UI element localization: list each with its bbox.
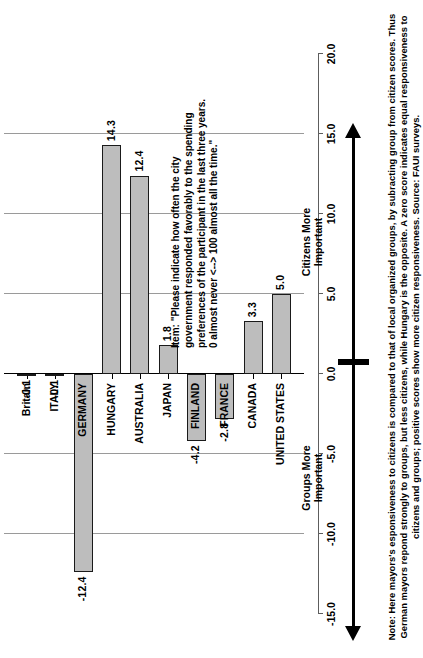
bar-value-label: -4.2	[190, 445, 201, 464]
bar-hungary[interactable]	[102, 145, 121, 374]
bar-value-label: 5.0	[275, 275, 286, 290]
gridline--5	[4, 453, 304, 454]
axis-tick-label: 5.0	[326, 272, 337, 316]
axis-tick-label: -15.0	[326, 592, 337, 636]
category-label-united-states: UNITED STATES	[275, 383, 286, 465]
bar-value-label: -12.4	[77, 576, 88, 601]
axis-tick	[318, 373, 323, 374]
item-question-text: Item: "Please indicate how often the cit…	[170, 98, 221, 348]
note-source-text: Note: Here mayors's esponsiveness to cit…	[386, 4, 423, 650]
category-tick	[112, 374, 113, 379]
bar-japan[interactable]	[159, 345, 178, 374]
gridline--15	[4, 613, 304, 614]
category-label-finland: FINLAND	[190, 383, 201, 429]
axis-tick-label: 10.0	[326, 192, 337, 236]
bar-canada[interactable]	[244, 321, 263, 374]
category-label-france: FRANCE	[219, 383, 230, 427]
category-tick	[168, 374, 169, 379]
groups-more-important-line1: Groups More	[300, 445, 312, 510]
bar-value-label: 14.3	[106, 120, 117, 141]
axis-tick-label: 20.0	[326, 32, 337, 76]
citizens-more-important-line2: Important	[312, 218, 324, 266]
category-tick	[253, 374, 254, 379]
groups-more-important-line2: Important	[312, 454, 324, 502]
bar-italy[interactable]	[45, 374, 64, 376]
bar-united-states[interactable]	[272, 294, 291, 374]
bar-value-label: 3.3	[247, 302, 258, 317]
axis-tick	[318, 53, 323, 54]
gridline-5	[4, 293, 304, 294]
category-label-japan: JAPAN	[162, 383, 173, 418]
bar-britain[interactable]	[17, 374, 36, 376]
category-label-germany: GERMANY	[77, 383, 88, 437]
category-label-britain: Britain	[21, 383, 32, 416]
bar-australia[interactable]	[130, 176, 149, 374]
citizens-more-important-line1: Citizens More	[300, 208, 312, 276]
gridline-20	[4, 53, 304, 54]
axis-tick	[318, 133, 323, 134]
category-tick	[140, 374, 141, 379]
gridline--10	[4, 533, 304, 534]
axis-tick-label: 15.0	[326, 112, 337, 156]
bar-value-label: 12.4	[134, 150, 145, 171]
axis-tick-label: -5.0	[326, 432, 337, 476]
gridline-15	[4, 133, 304, 134]
axis-tick-label: -10.0	[326, 512, 337, 556]
category-label-australia: AUSTRALIA	[134, 383, 145, 444]
category-tick	[281, 374, 282, 379]
gridline-10	[4, 213, 304, 214]
category-label-canada: CANADA	[247, 383, 258, 429]
axis-tick	[318, 613, 323, 614]
plot-area: -0.1Britain-0.1ITALY-12.4GERMANY14.3HUNG…	[4, 54, 304, 614]
category-label-italy: ITALY	[49, 383, 60, 412]
axis-tick-label: 0.0	[326, 352, 337, 396]
category-label-hungary: HUNGARY	[106, 383, 117, 436]
